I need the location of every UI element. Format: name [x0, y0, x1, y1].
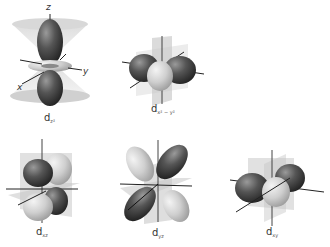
dx2-y2-orbital-graphic: [122, 34, 204, 110]
z-axis-label: z: [46, 2, 51, 12]
dyz-orbital-graphic: [120, 140, 192, 224]
orbital-dyz: [120, 140, 192, 224]
label-dyz: dyz: [152, 227, 164, 239]
label-dx2-y2: dx² − y²: [151, 103, 175, 115]
label-dz2: dz²: [44, 112, 55, 124]
label-dxz: dxz: [36, 226, 48, 238]
y-axis-label: y: [83, 66, 88, 76]
orbital-dxy: [230, 150, 324, 226]
dz2-orbital-graphic: [8, 6, 92, 110]
dxz-orbital-graphic: [6, 139, 80, 225]
x-axis-label: x: [17, 82, 22, 92]
orbital-dx2-y2: [122, 34, 204, 110]
orbital-dxz: [6, 139, 80, 225]
label-dxy: dxy: [266, 226, 278, 238]
dxy-orbital-graphic: [230, 150, 324, 226]
orbital-dz2: z x y: [8, 6, 92, 110]
